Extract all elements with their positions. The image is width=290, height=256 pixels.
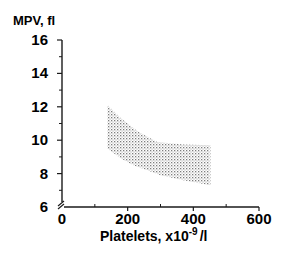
- x-tick-label: 0: [58, 210, 66, 227]
- y-tick-label: 8: [40, 165, 48, 182]
- x-axis-title-sup: -9: [189, 226, 198, 237]
- shaded-range-band: [107, 105, 210, 185]
- y-tick-label: 6: [40, 198, 48, 215]
- x-tick-label: 200: [115, 210, 140, 227]
- chart-canvas: MPV, fl 6810121416 0200400600 Platelets,…: [0, 0, 290, 256]
- axis-break-icon: [58, 201, 64, 209]
- x-tick-label: 400: [181, 210, 206, 227]
- x-axis-title: Platelets, x10-9/l: [100, 226, 207, 244]
- x-axis-title-main: Platelets, x10: [100, 228, 189, 244]
- y-tick-label: 14: [31, 64, 48, 81]
- y-tick-label: 16: [31, 31, 48, 48]
- x-axis-title-tail: /l: [200, 228, 208, 244]
- x-tick-label: 600: [246, 210, 271, 227]
- y-tick-label: 10: [31, 131, 48, 148]
- y-tick-label: 12: [31, 98, 48, 115]
- y-axis-title: MPV, fl: [13, 13, 55, 28]
- y-axis-ticks: 6810121416: [31, 31, 62, 215]
